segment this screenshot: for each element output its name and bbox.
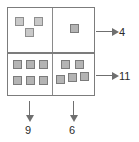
grid-outer-box — [7, 7, 95, 96]
arrow-shaft — [29, 101, 31, 116]
square — [26, 60, 35, 69]
arrow-shaft — [73, 101, 75, 116]
square — [34, 17, 43, 26]
square — [26, 76, 35, 85]
square — [80, 72, 89, 81]
square — [68, 73, 77, 82]
column-total-left: 9 — [25, 125, 31, 136]
row-total-top: 4 — [119, 27, 125, 38]
square — [39, 60, 48, 69]
square — [39, 76, 48, 85]
quadrant-bottom-left — [8, 54, 52, 97]
square — [70, 24, 79, 33]
arrow-right-icon-top-row — [96, 27, 119, 36]
square — [13, 76, 22, 85]
row-total-bottom: 11 — [119, 71, 130, 82]
arrow-head — [112, 28, 119, 36]
column-total-right: 6 — [69, 125, 75, 136]
diagram-canvas: 4 11 9 6 — [0, 0, 139, 142]
arrow-down-icon-left-column — [25, 101, 34, 122]
arrow-shaft — [96, 31, 113, 33]
arrow-head — [70, 115, 78, 122]
square — [75, 60, 84, 69]
square — [25, 28, 34, 37]
square — [56, 75, 65, 84]
square — [15, 17, 24, 26]
arrow-down-icon-right-column — [69, 101, 78, 122]
square — [61, 60, 70, 69]
quadrant-bottom-right — [53, 54, 96, 97]
arrow-shaft — [96, 75, 113, 77]
arrow-right-icon-bottom-row — [96, 71, 119, 80]
square — [13, 60, 22, 69]
arrow-head — [112, 72, 119, 80]
quadrant-top-right — [53, 8, 96, 52]
arrow-head — [26, 115, 34, 122]
quadrant-top-left — [8, 8, 52, 52]
